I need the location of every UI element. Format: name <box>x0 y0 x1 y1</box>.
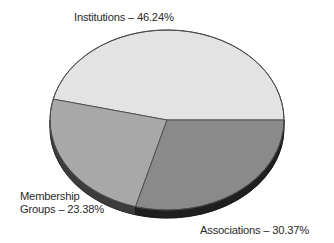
label-institutions: Institutions – 46.24% <box>74 11 174 23</box>
pie-chart-figure: Institutions – 46.24% Membership Groups … <box>0 0 334 243</box>
label-associations: Associations – 30.37% <box>200 224 309 236</box>
pie-slices <box>50 30 284 210</box>
label-membership-groups-line2: Groups – 23.38% <box>20 203 104 215</box>
label-membership-groups-line1: Membership <box>20 190 80 202</box>
pie-chart-canvas: Institutions – 46.24% Membership Groups … <box>0 0 334 243</box>
